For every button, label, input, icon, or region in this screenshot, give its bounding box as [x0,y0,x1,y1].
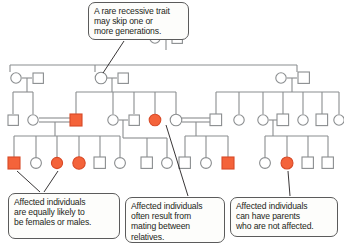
individual-female-unaffected[interactable] [276,73,286,83]
callout-consanguinity: Affected individuals often result from m… [125,197,225,243]
callout-skip-generations: A rare recessive trait may skip one or m… [88,2,189,40]
callout-line: A rare recessive trait [94,6,184,16]
individual-male-unaffected[interactable] [33,73,43,83]
individual-female-affected[interactable] [281,157,293,169]
individual-male-unaffected[interactable] [302,157,313,168]
individual-female-unaffected[interactable] [201,158,212,169]
individual-female-affected[interactable] [51,157,62,168]
generation-4-symbols [8,157,333,169]
individual-female-unaffected[interactable] [28,115,38,125]
individual-male-unaffected[interactable] [277,114,289,126]
individual-male-unaffected[interactable] [118,73,128,83]
individual-female-unaffected[interactable] [115,158,126,169]
pedigree-figure: A rare recessive trait may skip one or m… [0,0,344,244]
individual-female-affected[interactable] [149,114,161,126]
individual-female-unaffected[interactable] [258,115,268,125]
individual-female-unaffected[interactable] [234,115,244,125]
callout-line: can have parents [236,211,333,221]
callout-line: Affected individuals [236,201,333,211]
individual-female-unaffected[interactable] [334,115,344,125]
individual-female-affected[interactable] [73,157,85,169]
individual-male-unaffected[interactable] [316,114,328,126]
individual-male-unaffected[interactable] [129,115,139,125]
individual-male-affected[interactable] [222,157,234,169]
individual-male-unaffected[interactable] [298,72,309,83]
callout-line: Affected individuals [131,201,220,211]
individual-female-unaffected[interactable] [11,73,21,83]
callout-line: more generations. [94,26,184,36]
individual-female-unaffected[interactable] [95,72,107,84]
generation-3-symbols [8,114,344,126]
individual-male-unaffected[interactable] [210,114,222,126]
leader-equally-likely-a [17,171,40,192]
leader-carrier-parents [288,171,290,196]
callout-equally-likely: Affected individuals are equally likely … [8,193,120,239]
callout-line: be females or males. [14,217,115,227]
callout-line: may skip one or [94,16,184,26]
callout-line: who are not affected. [236,221,333,231]
individual-female-unaffected[interactable] [260,158,271,169]
callout-line: mating between [131,221,220,231]
individual-male-unaffected[interactable] [322,157,333,168]
leader-skip-generations [103,41,124,73]
individual-male-unaffected[interactable] [141,157,152,168]
individual-male-affected[interactable] [70,114,82,126]
individual-female-unaffected[interactable] [108,115,118,125]
callout-line: are equally likely to [14,207,115,217]
individual-male-unaffected[interactable] [179,157,190,168]
individual-female-unaffected[interactable] [170,114,182,126]
individual-male-affected[interactable] [8,157,20,169]
individual-female-unaffected[interactable] [162,158,173,169]
leader-equally-likely-b [44,171,58,192]
callout-carrier-parents: Affected individuals can have parents wh… [230,197,338,237]
pedigree-connector-lines [10,38,339,157]
individual-male-unaffected[interactable] [94,157,105,168]
generation-2-symbols [11,72,310,84]
callout-line: often result from [131,211,220,221]
individual-female-unaffected[interactable] [298,115,308,125]
individual-female-unaffected[interactable] [31,158,42,169]
callout-line: Affected individuals [14,197,115,207]
individual-male-unaffected[interactable] [8,115,18,125]
callout-line: relatives. [131,232,220,242]
